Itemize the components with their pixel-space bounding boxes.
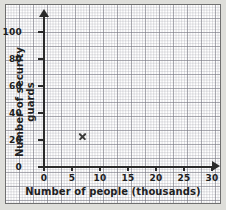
x-tick-label: 5 [69,173,75,183]
x-tick-mark [211,166,213,171]
x-tick-label: 15 [122,173,135,183]
y-tick-mark [38,166,43,168]
x-tick-mark [155,166,157,171]
x-tick-label: 25 [178,173,191,183]
x-tick-label: 0 [41,173,47,183]
x-tick-mark [99,166,101,171]
plot-area: 0 5 10 15 20 25 30 0 20 40 60 80 100 [6,5,220,203]
y-tick-mark [38,139,43,141]
y-axis-line [43,16,45,168]
cross-marker-icon [78,132,87,141]
chart-page: 0 5 10 15 20 25 30 0 20 40 60 80 100 [0,0,226,210]
x-axis-line [43,166,215,168]
x-tick-label: 10 [94,173,107,183]
y-tick-mark [38,58,43,60]
y-tick-mark [38,112,43,114]
x-tick-label: 30 [206,173,219,183]
x-tick-mark [71,166,73,171]
arrow-up-icon [39,9,49,17]
graph-paper-sheet: 0 5 10 15 20 25 30 0 20 40 60 80 100 [5,4,221,204]
x-axis-title: Number of people (thousands) [6,186,220,197]
y-tick-mark [38,31,43,33]
x-tick-mark [127,166,129,171]
x-tick-label: 20 [150,173,163,183]
arrow-right-icon [212,161,220,171]
y-tick-mark [38,85,43,87]
y-axis-title: Number of security guards [14,27,36,177]
x-tick-mark [183,166,185,171]
x-tick-mark [43,166,45,171]
